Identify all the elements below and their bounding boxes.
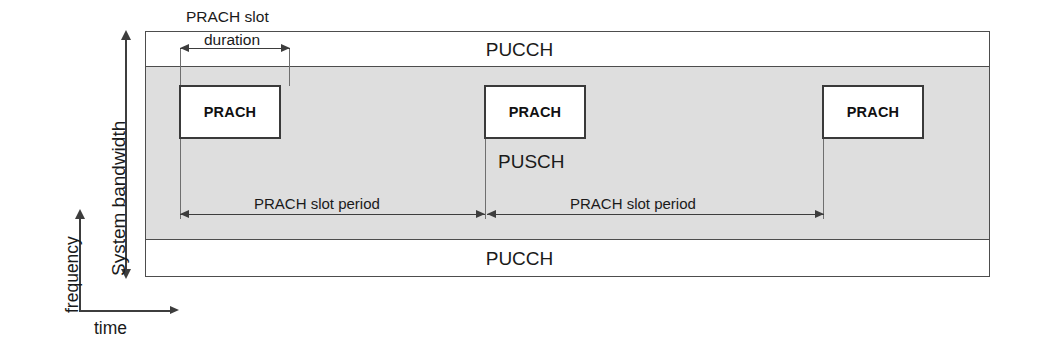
prach-box: PRACH — [179, 85, 281, 139]
frequency-axis-label: frequency — [62, 236, 83, 313]
prach-box: PRACH — [822, 85, 924, 139]
period-2-dimension-line — [487, 214, 824, 215]
system-bandwidth-arrow-up-head — [121, 30, 131, 40]
time-axis-line — [79, 310, 174, 312]
prach-resource-diagram: PUCCH PUSCH PUCCH PRACH PRACH PRACH PRAC… — [0, 0, 1039, 347]
time-axis-arrow-head — [170, 306, 179, 314]
prach-box-label: PRACH — [509, 104, 562, 120]
prach-slot-duration-label-line1: PRACH slot — [186, 9, 269, 25]
duration-arrow-right-head — [281, 44, 290, 52]
guide-line-prach2-left — [485, 139, 486, 219]
prach-box: PRACH — [484, 85, 586, 139]
duration-dimension-line — [180, 48, 290, 49]
prach-slot-period-1-label: PRACH slot period — [254, 196, 380, 211]
frequency-axis-arrow-head — [75, 209, 85, 219]
prach-slot-duration-label-line2: duration — [204, 32, 260, 48]
prach-slot-period-2-label: PRACH slot period — [570, 196, 696, 211]
pucch-bottom-label: PUCCH — [0, 249, 1039, 268]
time-axis-label: time — [94, 320, 127, 338]
prach-box-label: PRACH — [847, 104, 900, 120]
pucch-top-label: PUCCH — [0, 40, 1039, 59]
system-bandwidth-label: System bandwidth — [108, 121, 130, 276]
guide-line-prach1-right — [289, 48, 290, 86]
period-1-dimension-line — [180, 214, 485, 215]
period-2-arrow-left-head — [487, 210, 496, 218]
pusch-label: PUSCH — [498, 152, 565, 171]
guide-line-prach3-left — [823, 139, 824, 219]
prach-box-label: PRACH — [204, 104, 257, 120]
duration-arrow-left-head — [180, 44, 189, 52]
period-1-arrow-right-head — [476, 210, 485, 218]
period-2-arrow-right-head — [815, 210, 824, 218]
period-1-arrow-left-head — [180, 210, 189, 218]
